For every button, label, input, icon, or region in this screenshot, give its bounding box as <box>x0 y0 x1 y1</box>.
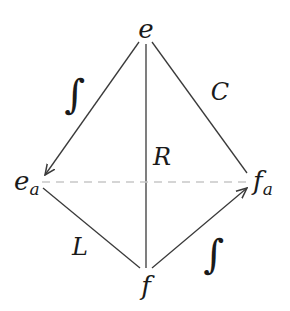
node-bottom: f <box>139 271 155 301</box>
label-integral-top-left: ∫ <box>65 71 86 117</box>
node-right: fa <box>251 166 273 199</box>
edge-bottom-to-right <box>152 188 247 268</box>
label-L: L <box>71 233 88 261</box>
edge-left-to-bottom <box>43 188 140 268</box>
node-top: e <box>138 14 153 44</box>
label-integral-bottom-right: ∫ <box>204 231 225 277</box>
node-left: ea <box>14 166 40 199</box>
edge-top-to-left <box>45 42 139 175</box>
label-R: R <box>152 143 171 171</box>
commutative-diagram: e ea fa f ∫ C R L ∫ <box>0 0 290 311</box>
label-C: C <box>211 78 229 106</box>
